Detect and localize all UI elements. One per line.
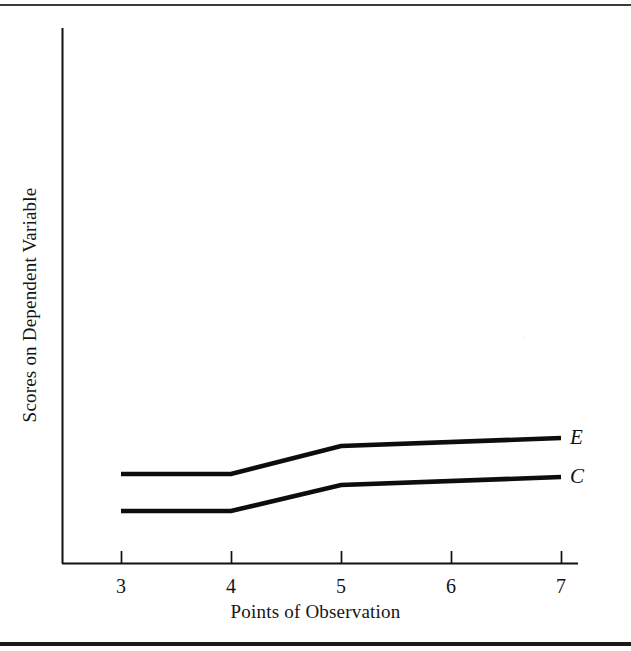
series-line-C (121, 477, 561, 511)
series-label-C: C (570, 466, 584, 487)
chart-plot-area (0, 0, 631, 651)
figure-canvas: 3 4 5 6 7 E C Points of Observation Scor… (0, 0, 631, 651)
y-axis-title-wrapper: Scores on Dependent Variable (19, 135, 49, 475)
scan-artifact-speck: · (522, 333, 531, 342)
bottom-rule-divider (0, 642, 631, 646)
x-axis-title: Points of Observation (0, 601, 631, 623)
x-tick-label-3: 3 (106, 576, 136, 596)
x-tick-label-6: 6 (436, 576, 466, 596)
x-tick-label-7: 7 (546, 576, 576, 596)
y-axis-title: Scores on Dependent Variable (19, 188, 40, 423)
x-tick-label-5: 5 (326, 576, 356, 596)
series-label-E: E (570, 427, 583, 448)
x-tick-label-4: 4 (216, 576, 246, 596)
series-line-E (121, 438, 561, 474)
